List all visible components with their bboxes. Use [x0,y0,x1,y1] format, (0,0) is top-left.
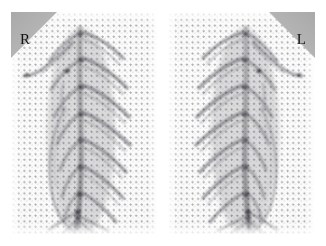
orientation-marker-left: L [269,12,315,58]
orientation-marker-label: R [20,32,30,47]
radiograph-viewer: R [0,0,326,246]
orientation-marker-right: R [11,12,57,58]
corner-triangle-icon [269,12,315,58]
radiograph-panel-left[interactable]: L [168,12,315,234]
orientation-marker-label: L [297,32,306,47]
radiograph-panel-right[interactable]: R [11,12,158,234]
corner-triangle-icon [11,12,57,58]
